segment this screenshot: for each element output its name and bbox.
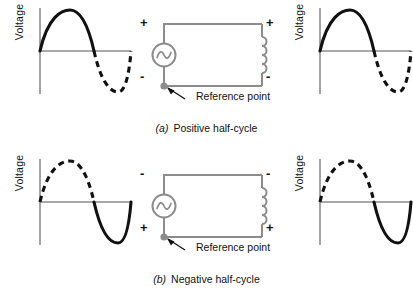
y-axis-label: Voltage bbox=[13, 134, 25, 212]
reference-point-label: Reference point bbox=[196, 90, 270, 102]
bottom-wire bbox=[164, 66, 262, 86]
top-wire bbox=[164, 24, 262, 44]
bottom-wire bbox=[164, 217, 262, 237]
caption-tag: (a) bbox=[156, 122, 169, 134]
caption-text: Negative half-cycle bbox=[171, 273, 260, 285]
inductor-coil-icon bbox=[262, 37, 267, 73]
source-bottom-polarity: - bbox=[140, 70, 144, 83]
waveform-positive-half bbox=[40, 161, 94, 202]
waveform-right-a: Voltage bbox=[288, 6, 413, 106]
load-bottom-polarity: - bbox=[266, 70, 270, 83]
panel-negative-half-cycle: Voltage - + - + Reference point Voltage bbox=[0, 151, 413, 301]
source-top-polarity: - bbox=[140, 167, 144, 180]
waveform-left-b: Voltage bbox=[8, 157, 133, 257]
waveform-right-b: Voltage bbox=[288, 157, 413, 257]
reference-arrow-head bbox=[167, 238, 175, 245]
inductor-coil-icon bbox=[262, 188, 267, 224]
caption-b: (b)Negative half-cycle bbox=[0, 273, 413, 285]
waveform-negative-half bbox=[374, 51, 411, 92]
caption-text: Positive half-cycle bbox=[173, 122, 257, 134]
load-bottom-polarity: + bbox=[266, 221, 274, 234]
waveform-plot bbox=[36, 157, 133, 249]
waveform-positive-half bbox=[320, 161, 374, 202]
waveform-plot bbox=[36, 6, 133, 98]
panel-positive-half-cycle: Voltage + - + - Reference point Voltage bbox=[0, 0, 413, 150]
waveform-positive-half bbox=[320, 10, 374, 51]
circuit-diagram-b: - + - + Reference point bbox=[138, 155, 288, 265]
y-axis-label: Voltage bbox=[293, 134, 305, 212]
waveform-negative-half bbox=[94, 202, 131, 243]
caption-a: (a)Positive half-cycle bbox=[0, 122, 413, 134]
load-top-polarity: + bbox=[266, 16, 274, 29]
circuit-diagram-a: + - + - Reference point bbox=[138, 4, 288, 114]
source-top-polarity: + bbox=[140, 16, 148, 29]
reference-point-label: Reference point bbox=[196, 241, 270, 253]
waveform-negative-half bbox=[374, 202, 411, 243]
source-bottom-polarity: + bbox=[140, 221, 148, 234]
waveform-plot bbox=[316, 6, 413, 98]
load-top-polarity: - bbox=[266, 167, 270, 180]
waveform-left-a: Voltage bbox=[8, 6, 133, 106]
caption-tag: (b) bbox=[153, 273, 166, 285]
reference-point-dot bbox=[160, 82, 167, 89]
waveform-negative-half bbox=[94, 51, 131, 92]
waveform-plot bbox=[316, 157, 413, 249]
reference-point-dot bbox=[160, 233, 167, 240]
waveform-positive-half bbox=[40, 10, 94, 51]
y-axis-label: Voltage bbox=[13, 0, 25, 61]
top-wire bbox=[164, 175, 262, 195]
y-axis-label: Voltage bbox=[293, 0, 305, 61]
reference-arrow-head bbox=[167, 87, 175, 94]
